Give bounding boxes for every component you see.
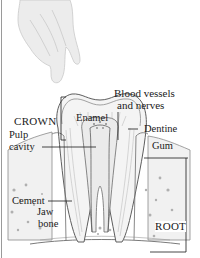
label-crown: CROWN xyxy=(14,116,56,127)
label-root: ROOT xyxy=(155,221,186,232)
label-blood-vessels-line1: Blood vessels xyxy=(114,88,175,99)
label-gum: Gum xyxy=(152,141,173,152)
label-cement: Cement xyxy=(12,196,45,207)
label-jaw-line1: Jaw xyxy=(37,207,53,218)
label-pulp-line2: cavity xyxy=(9,142,35,153)
hand-icon xyxy=(18,0,80,83)
label-pulp-line1: Pulp xyxy=(9,130,28,141)
label-enamel: Enamel xyxy=(76,113,108,124)
label-dentine: Dentine xyxy=(144,124,177,135)
label-blood-vessels-line2: and nerves xyxy=(117,100,164,111)
label-jaw-line2: bone xyxy=(38,219,58,230)
